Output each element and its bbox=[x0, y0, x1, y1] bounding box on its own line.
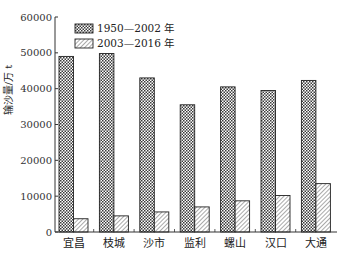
bar-1950-2002 bbox=[221, 87, 236, 232]
bar-1950-2002 bbox=[301, 80, 316, 232]
x-category-label: 宜昌 bbox=[63, 236, 85, 250]
bar-1950-2002 bbox=[59, 56, 74, 232]
y-axis: 0100002000030000400005000060000 bbox=[20, 12, 58, 238]
y-tick-label: 40000 bbox=[20, 83, 52, 94]
bar-1950-2002 bbox=[99, 54, 114, 232]
sediment-bar-chart: 0100002000030000400005000060000 宜昌枝城沙市监利… bbox=[0, 0, 349, 259]
legend-swatch bbox=[75, 39, 93, 48]
bar-1950-2002 bbox=[140, 78, 155, 232]
bar-1950-2002 bbox=[180, 105, 195, 232]
bar-2003-2016 bbox=[235, 201, 250, 232]
bar-2003-2016 bbox=[276, 195, 291, 232]
x-category-label: 监利 bbox=[184, 237, 206, 250]
y-tick-label: 60000 bbox=[20, 12, 52, 23]
y-tick-label: 20000 bbox=[20, 155, 52, 166]
bar-2003-2016 bbox=[316, 184, 331, 232]
x-category-label: 枝城 bbox=[103, 236, 125, 250]
bars bbox=[59, 54, 330, 232]
x-category-label: 螺山 bbox=[224, 237, 246, 250]
y-axis-label: 输沙量/万 t bbox=[2, 65, 14, 116]
legend-label: 1950—2002 年 bbox=[97, 22, 174, 34]
y-tick-label: 50000 bbox=[20, 47, 52, 58]
y-tick-label: 30000 bbox=[20, 119, 52, 130]
legend: 1950—2002 年2003—2016 年 bbox=[75, 22, 174, 49]
x-axis: 宜昌枝城沙市监利螺山汉口大通 bbox=[55, 229, 337, 250]
bar-2003-2016 bbox=[154, 212, 169, 232]
bar-2003-2016 bbox=[114, 216, 128, 232]
legend-swatch bbox=[75, 24, 93, 33]
legend-label: 2003—2016 年 bbox=[97, 37, 174, 49]
x-category-label: 大通 bbox=[305, 236, 327, 250]
bar-2003-2016 bbox=[74, 219, 89, 232]
x-category-label: 汉口 bbox=[265, 237, 287, 250]
x-category-label: 沙市 bbox=[143, 236, 165, 250]
y-tick-label: 0 bbox=[46, 227, 52, 238]
bar-2003-2016 bbox=[195, 207, 210, 232]
bar-1950-2002 bbox=[261, 90, 276, 232]
y-tick-label: 10000 bbox=[20, 191, 52, 202]
